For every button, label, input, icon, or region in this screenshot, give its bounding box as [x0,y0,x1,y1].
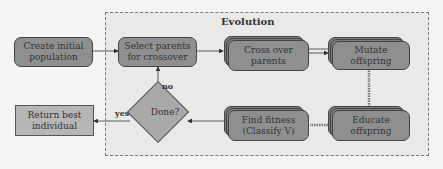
node-find-fitness: Find fitness (Classify V) [228,110,309,141]
node-find-fitness-line2: (Classify V) [242,126,294,137]
node-return-best-individual: Return best individual [15,105,94,136]
edge-label-no: no [162,81,173,91]
node-create-initial-population: Create initial population [14,37,93,67]
node-mutate-offspring: Mutate offspring [332,41,410,70]
node-done-label: Done? [134,107,196,117]
node-select-parents: Select parents for crossover [118,37,197,67]
edge-label-yes: yes [115,108,129,118]
node-cross-over-parents: Cross over parents [228,40,309,71]
node-find-fitness-line1: Find fitness [242,115,296,126]
edges-layer [0,0,443,169]
node-educate-offspring: Educate offspring [332,110,410,141]
